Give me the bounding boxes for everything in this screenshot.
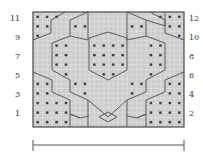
bobble-dot bbox=[102, 73, 105, 76]
bobble-dot bbox=[36, 92, 39, 95]
bobble-dot bbox=[168, 92, 171, 95]
bobble-dot bbox=[55, 54, 58, 57]
bobble-dot bbox=[102, 63, 105, 66]
bobble-dot bbox=[36, 121, 39, 124]
bobble-dot bbox=[55, 15, 58, 18]
bobble-dot bbox=[150, 73, 153, 76]
bobble-dot bbox=[112, 73, 115, 76]
bobble-dot bbox=[150, 54, 153, 57]
bobble-dot bbox=[93, 44, 96, 47]
bobble-dot bbox=[178, 15, 181, 18]
bobble-dot bbox=[178, 111, 181, 114]
bobble-dot bbox=[140, 25, 143, 28]
bobble-dot bbox=[168, 15, 171, 18]
bobble-dot bbox=[150, 102, 153, 105]
bobble-dot bbox=[74, 25, 77, 28]
bobble-dot bbox=[159, 111, 162, 114]
bobble-dot bbox=[168, 102, 171, 105]
bobble-dot bbox=[102, 44, 105, 47]
bobble-dot bbox=[93, 63, 96, 66]
bobble-dot bbox=[178, 92, 181, 95]
bobble-dot bbox=[150, 63, 153, 66]
bobble-dot bbox=[131, 92, 134, 95]
bobble-dot bbox=[55, 121, 58, 124]
bobble-dot bbox=[46, 121, 49, 124]
bobble-dot bbox=[36, 35, 39, 38]
bobble-dot bbox=[84, 92, 87, 95]
chart-svg bbox=[0, 0, 203, 160]
bobble-dot bbox=[46, 92, 49, 95]
bobble-dot bbox=[65, 63, 68, 66]
bobble-dot bbox=[84, 25, 87, 28]
bobble-dot bbox=[131, 25, 134, 28]
bobble-dot bbox=[102, 54, 105, 57]
bobble-dot bbox=[46, 82, 49, 85]
bobble-dot bbox=[55, 44, 58, 47]
bobble-dot bbox=[178, 82, 181, 85]
bobble-dot bbox=[46, 102, 49, 105]
bobble-dot bbox=[46, 15, 49, 18]
bobble-dot bbox=[150, 111, 153, 114]
bobble-dot bbox=[46, 111, 49, 114]
bobble-dot bbox=[131, 82, 134, 85]
bobble-dot bbox=[159, 63, 162, 66]
bobble-dot bbox=[36, 111, 39, 114]
bobble-dot bbox=[65, 111, 68, 114]
bobble-dot bbox=[168, 121, 171, 124]
bobble-dot bbox=[112, 54, 115, 57]
bobble-dot bbox=[121, 63, 124, 66]
bobble-dot bbox=[93, 54, 96, 57]
bobble-dot bbox=[159, 15, 162, 18]
bobble-dot bbox=[178, 102, 181, 105]
bobble-dot bbox=[112, 63, 115, 66]
bobble-dot bbox=[46, 25, 49, 28]
bobble-dot bbox=[65, 102, 68, 105]
bobble-dot bbox=[159, 102, 162, 105]
bobble-dot bbox=[178, 35, 181, 38]
bobble-dot bbox=[150, 44, 153, 47]
bobble-dot bbox=[178, 25, 181, 28]
bobble-dot bbox=[55, 63, 58, 66]
bobble-dot bbox=[121, 44, 124, 47]
bobble-dot bbox=[36, 102, 39, 105]
bobble-dot bbox=[159, 121, 162, 124]
bobble-dot bbox=[178, 121, 181, 124]
bobble-dot bbox=[65, 54, 68, 57]
bobble-dot bbox=[36, 15, 39, 18]
bobble-dot bbox=[65, 44, 68, 47]
bobble-dot bbox=[55, 102, 58, 105]
bobble-dot bbox=[65, 121, 68, 124]
bobble-dot bbox=[84, 82, 87, 85]
bobble-dot bbox=[168, 82, 171, 85]
bobble-dot bbox=[168, 111, 171, 114]
bobble-dot bbox=[55, 111, 58, 114]
bobble-dot bbox=[121, 54, 124, 57]
bobble-dot bbox=[159, 44, 162, 47]
bobble-dot bbox=[65, 73, 68, 76]
bobble-dot bbox=[36, 82, 39, 85]
bobble-dot bbox=[36, 25, 39, 28]
bobble-dot bbox=[140, 82, 143, 85]
bobble-dot bbox=[112, 44, 115, 47]
scale-bar bbox=[33, 140, 184, 151]
bobble-dot bbox=[74, 82, 77, 85]
bobble-dot bbox=[168, 25, 171, 28]
bobble-dot bbox=[150, 121, 153, 124]
bobble-dot bbox=[159, 54, 162, 57]
